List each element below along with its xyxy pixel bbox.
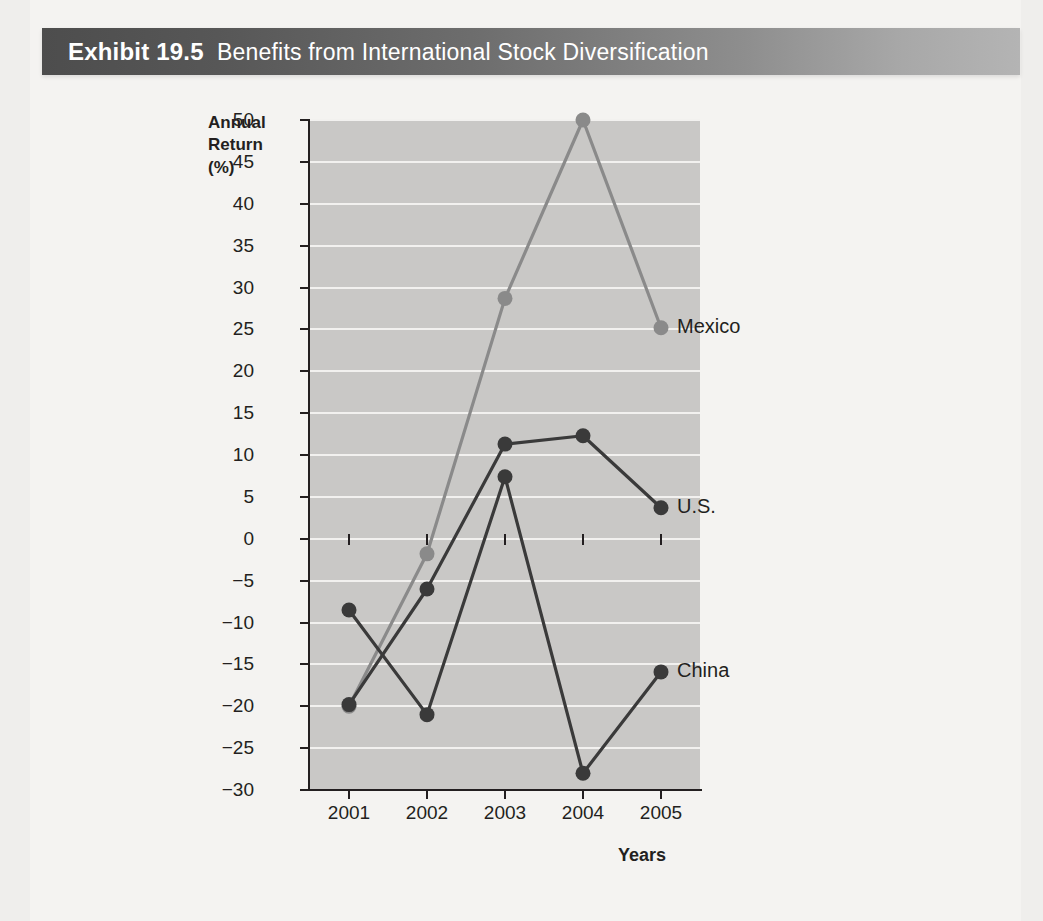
data-point-marker xyxy=(420,546,435,561)
data-point-marker xyxy=(498,469,513,484)
data-point-marker xyxy=(576,428,591,443)
data-point-marker xyxy=(654,664,669,679)
series-label-us: U.S. xyxy=(677,495,716,518)
series-label-mexico: Mexico xyxy=(677,315,740,338)
data-point-marker xyxy=(342,602,357,617)
series-line-mexico xyxy=(349,120,661,706)
series-line-china xyxy=(349,477,661,773)
data-point-marker xyxy=(420,582,435,597)
data-point-marker xyxy=(654,500,669,515)
data-point-marker xyxy=(498,437,513,452)
data-point-marker xyxy=(498,291,513,306)
exhibit-figure: Exhibit 19.5 Benefits from International… xyxy=(0,0,1043,921)
data-point-marker xyxy=(654,320,669,335)
data-point-marker xyxy=(420,707,435,722)
line-chart: 50454035302520151050−5−10−15−20−25−30 20… xyxy=(0,0,1043,921)
data-point-marker xyxy=(576,113,591,128)
series-plot xyxy=(0,0,1043,921)
data-point-marker xyxy=(342,697,357,712)
data-point-marker xyxy=(576,766,591,781)
series-label-china: China xyxy=(677,659,729,682)
series-group xyxy=(342,113,669,781)
